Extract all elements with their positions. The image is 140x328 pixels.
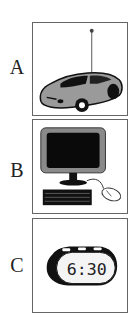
- option-c[interactable]: C 6:30: [0, 218, 140, 313]
- option-label: C: [8, 254, 26, 277]
- option-label: A: [8, 56, 26, 79]
- toy-car-icon: [33, 23, 127, 115]
- desktop-computer-icon: [33, 120, 127, 213]
- option-a[interactable]: A: [0, 22, 140, 116]
- option-label: B: [8, 159, 26, 182]
- option-image-box[interactable]: [32, 22, 128, 116]
- alarm-clock-icon: 6:30: [33, 219, 127, 312]
- option-b[interactable]: B: [0, 119, 140, 214]
- clock-display: 6:30: [67, 260, 107, 279]
- option-image-box[interactable]: [32, 119, 128, 214]
- option-image-box[interactable]: 6:30: [32, 218, 128, 313]
